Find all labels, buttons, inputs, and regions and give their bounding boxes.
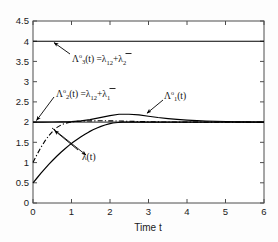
xtick-label: 0 xyxy=(30,206,35,217)
xtick-label: 3 xyxy=(146,206,151,217)
annot-lambda-t-rest: (t) xyxy=(87,152,96,163)
xtick-label: 1 xyxy=(69,206,74,217)
x-tick-labels: 0 1 2 3 4 5 6 xyxy=(30,206,266,217)
xtick-label: 5 xyxy=(223,206,228,217)
annot-lambda2-rest1: (t) =λ xyxy=(69,89,91,100)
ytick-label: 3.5 xyxy=(16,56,29,67)
annotation-lambda-t: λ(t) xyxy=(82,152,96,163)
annot-lambda2-sub2: 1 xyxy=(107,94,110,101)
ytick-label: 1.5 xyxy=(16,137,29,148)
ytick-label: 0.5 xyxy=(16,177,29,188)
annot-lambda3-sub2: 2 xyxy=(123,59,126,66)
xtick-label: 6 xyxy=(261,206,266,217)
annot-lambda3-rest1: (t) =λ xyxy=(85,54,107,65)
ytick-label: 4.5 xyxy=(16,15,29,26)
x-axis-title: Time t xyxy=(134,222,162,233)
xtick-label: 2 xyxy=(107,206,112,217)
ytick-label: 1 xyxy=(24,157,29,168)
ytick-label: 3 xyxy=(24,76,29,87)
figure-canvas: 0 0.5 1 1.5 2 2.5 3 3.5 4 4.5 0 1 2 3 4 … xyxy=(0,0,278,242)
annot-lambda1-rest1: (t) xyxy=(177,91,186,102)
ytick-label: 4 xyxy=(24,36,29,47)
ytick-label: 2 xyxy=(24,116,29,127)
ytick-label: 0 xyxy=(24,197,29,208)
chart-svg: 0 0.5 1 1.5 2 2.5 3 3.5 4 4.5 0 1 2 3 4 … xyxy=(0,0,278,242)
y-tick-labels: 0 0.5 1 1.5 2 2.5 3 3.5 4 4.5 xyxy=(16,15,29,208)
xtick-label: 4 xyxy=(184,206,189,217)
ytick-label: 2.5 xyxy=(16,96,29,107)
